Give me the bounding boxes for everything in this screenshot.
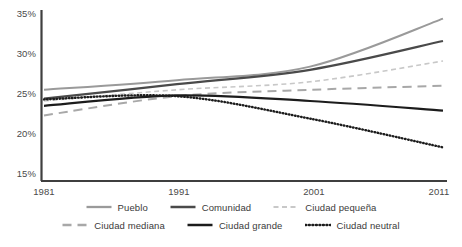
legend-swatch-comunidad <box>170 202 196 212</box>
series-group <box>44 19 443 148</box>
legend-label-pueblo: Pueblo <box>118 202 148 213</box>
legend-swatch-ciudad-neutral <box>305 220 331 230</box>
legend-label-ciudad-mediana: Ciudad mediana <box>94 220 165 231</box>
legend-item-comunidad[interactable]: Comunidad <box>170 202 252 213</box>
axes-group <box>41 10 447 181</box>
legend-row-2: Ciudad mediana Ciudad grande Ciudad neut… <box>0 216 462 234</box>
line-chart: 35% 30% 25% 20% 15% 1981 1991 2001 2011 … <box>0 0 462 247</box>
x-tick-label-2011: 2011 <box>419 186 459 197</box>
legend-item-ciudad-mediana[interactable]: Ciudad mediana <box>62 220 165 231</box>
chart-legend: Pueblo Comunidad Ciudad pequeña Ciudad m… <box>0 198 462 247</box>
legend-swatch-ciudad-pequena <box>273 202 299 212</box>
legend-label-ciudad-grande: Ciudad grande <box>219 220 283 231</box>
x-tick-label-2001: 2001 <box>294 186 334 197</box>
legend-item-ciudad-neutral[interactable]: Ciudad neutral <box>305 220 400 231</box>
legend-item-ciudad-pequena[interactable]: Ciudad pequeña <box>273 202 376 213</box>
legend-item-pueblo[interactable]: Pueblo <box>86 202 148 213</box>
series-line-ciudad-neutral <box>44 95 443 147</box>
legend-label-comunidad: Comunidad <box>202 202 252 213</box>
legend-swatch-pueblo <box>86 202 112 212</box>
legend-label-ciudad-pequena: Ciudad pequeña <box>305 202 376 213</box>
legend-swatch-ciudad-mediana <box>62 220 88 230</box>
y-tick-label-20: 20% <box>6 128 36 139</box>
y-tick-label-30: 30% <box>6 48 36 59</box>
legend-swatch-ciudad-grande <box>187 220 213 230</box>
plot-area <box>0 0 462 200</box>
x-tick-label-1991: 1991 <box>159 186 199 197</box>
y-tick-label-15: 15% <box>6 168 36 179</box>
x-tick-label-1981: 1981 <box>24 186 64 197</box>
series-line-ciudad-grande <box>44 95 443 110</box>
series-line-ciudad-pequeña <box>44 61 443 101</box>
legend-item-ciudad-grande[interactable]: Ciudad grande <box>187 220 283 231</box>
legend-label-ciudad-neutral: Ciudad neutral <box>337 220 400 231</box>
y-tick-label-35: 35% <box>6 8 36 19</box>
series-line-comunidad <box>44 41 443 99</box>
legend-row-1: Pueblo Comunidad Ciudad pequeña <box>0 198 462 216</box>
y-tick-label-25: 25% <box>6 88 36 99</box>
